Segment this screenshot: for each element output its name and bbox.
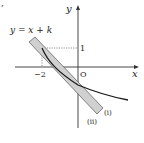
tick-label-y-1: 1 [80,44,85,53]
curve-label-i: (ⅰ) [104,109,112,117]
origin-label: O [80,70,87,79]
tick-label-x-minus-2: −2 [34,70,46,79]
function-graph-diagram: , y x O 1 −2 y = x + k (ⅰ) (ⅱ) [0,0,144,143]
corner-mark: , [1,0,4,8]
x-axis-label: x [132,68,138,79]
line-equation-label: y = x + k [9,25,52,35]
curve-label-ii: (ⅱ) [87,118,97,126]
y-axis-label: y [65,3,72,14]
y-axis-arrow-icon [76,5,80,10]
